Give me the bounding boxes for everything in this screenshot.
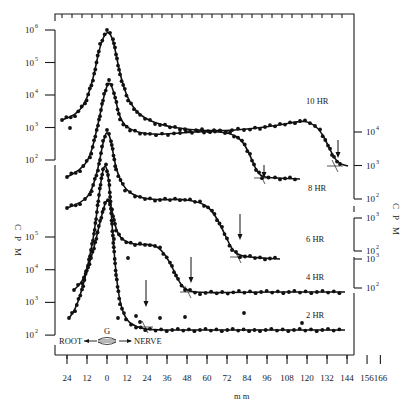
svg-text:M: M [13, 248, 23, 256]
series-label-2hr: 2 HR [306, 310, 325, 320]
x-tick-label: 24 [143, 373, 153, 383]
y-tick-label: 10 [366, 127, 376, 137]
y-tick-label: 10 [25, 58, 35, 68]
y-tick-label: 10 [25, 330, 35, 340]
y-tick-label: 10 [25, 265, 35, 275]
svg-text:P: P [13, 236, 23, 241]
svg-text:M: M [391, 227, 401, 235]
y-tick-label: 10 [366, 283, 376, 293]
svg-text:2: 2 [376, 244, 379, 250]
x-tick-label: 60 [203, 373, 213, 383]
x-tick-label: 48 [183, 373, 193, 383]
y-tick-label: 10 [25, 155, 35, 165]
chart-canvas: 106105104103102 105104103102 C P M 10410… [0, 0, 409, 409]
svg-text:2: 2 [35, 328, 38, 334]
svg-text:3: 3 [376, 211, 379, 217]
ganglion-icon [98, 338, 116, 345]
svg-text:3: 3 [35, 295, 38, 301]
y-tick-label: 10 [366, 254, 376, 264]
svg-text:C: C [13, 224, 23, 230]
series-labels: 10 HR 8 HR 6 HR 4 HR 2 HR [306, 96, 329, 320]
chart-figure: 106105104103102 105104103102 C P M 10410… [0, 0, 409, 409]
y-axis-left-label: C P M [13, 224, 23, 256]
right-axis: 104103102103102103102 [354, 125, 379, 345]
x-axis-ticks: 241201224364860728496108120132144156166 [62, 355, 387, 383]
y-tick-label: 10 [366, 194, 376, 204]
series-label-10hr: 10 HR [306, 96, 329, 106]
x-tick-label: 166 [374, 373, 388, 383]
left-axis-upper: 106105104103102 [25, 23, 55, 165]
svg-text:3: 3 [376, 159, 379, 165]
data-points [60, 28, 342, 333]
y-tick-label: 10 [25, 25, 35, 35]
curve-8hr [67, 83, 300, 179]
series-label-8hr: 8 HR [308, 183, 327, 193]
svg-text:5: 5 [35, 56, 38, 62]
svg-text:3: 3 [35, 121, 38, 127]
x-tick-label: 0 [105, 373, 110, 383]
svg-text:6: 6 [35, 23, 38, 29]
x-tick-label: 72 [223, 373, 232, 383]
left-axis-lower: 105104103102 [25, 165, 55, 340]
x-tick-label: 96 [263, 373, 273, 383]
svg-text:5: 5 [35, 230, 38, 236]
x-tick-label: 12 [123, 373, 132, 383]
svg-text:2: 2 [35, 153, 38, 159]
left-arrow-icon [84, 339, 97, 343]
svg-text:2: 2 [376, 281, 379, 287]
svg-text:4: 4 [376, 125, 379, 131]
svg-text:3: 3 [376, 252, 379, 258]
y-tick-label: 10 [25, 297, 35, 307]
right-arrow-icon [119, 339, 132, 343]
y-tick-label: 10 [25, 123, 35, 133]
series-label-4hr: 4 HR [306, 272, 325, 282]
svg-text:4: 4 [35, 263, 38, 269]
x-tick-label: 108 [280, 373, 294, 383]
x-tick-label: 144 [340, 373, 354, 383]
svg-text:2: 2 [376, 192, 379, 198]
y-tick-label: 10 [366, 213, 376, 223]
x-tick-label: 36 [163, 373, 173, 383]
root-label: ROOT [59, 336, 83, 346]
svg-text:C: C [391, 203, 401, 209]
y-tick-label: 10 [25, 232, 35, 242]
x-tick-label: 84 [243, 373, 253, 383]
x-tick-label: 156 [360, 373, 374, 383]
series-label-6hr: 6 HR [306, 234, 325, 244]
y-tick-label: 10 [25, 90, 35, 100]
data-curves [62, 33, 348, 330]
g-label: G [104, 326, 110, 336]
x-axis-title: m m [234, 391, 250, 401]
y-tick-label: 10 [366, 161, 376, 171]
x-tick-label: 132 [320, 373, 334, 383]
x-tick-label: 12 [82, 373, 91, 383]
y-axis-right-label: C P M [391, 203, 401, 235]
x-tick-label: 24 [62, 373, 72, 383]
x-tick-label: 120 [300, 373, 314, 383]
svg-text:4: 4 [35, 88, 38, 94]
nerve-label: NERVE [134, 336, 162, 346]
svg-text:P: P [391, 215, 401, 220]
